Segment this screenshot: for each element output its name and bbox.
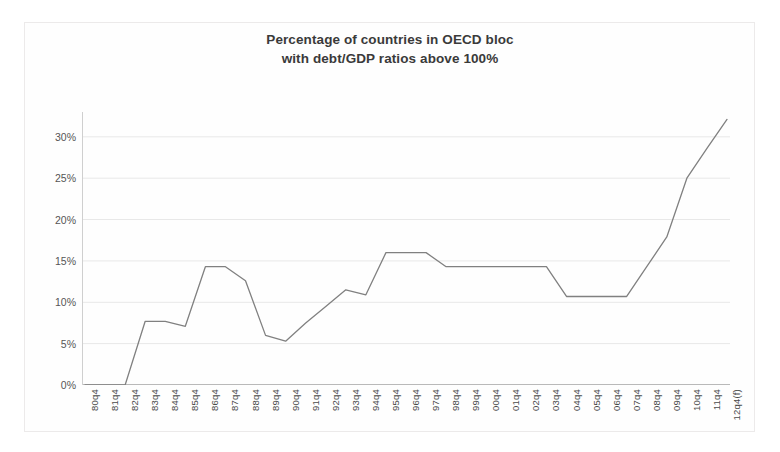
x-axis-tick-label: 07q4 [631,389,642,411]
chart-title: Percentage of countries in OECD bloc wit… [0,30,780,68]
y-axis-labels: 0%5%10%15%20%25%30% [32,112,76,385]
x-axis-tick-label: 00q4 [490,389,501,411]
x-axis-tick-label: 91q4 [310,389,321,411]
x-axis-tick-label: 03q4 [550,389,561,411]
y-axis-tick-label: 0% [36,379,76,391]
x-axis-tick-label: 05q4 [591,389,602,411]
data-series-line [85,119,727,385]
y-axis-tick-label: 30% [36,131,76,143]
y-axis-tick-label: 25% [36,172,76,184]
y-axis-tick-label: 5% [36,338,76,350]
x-axis-tick-label: 06q4 [611,389,622,411]
x-axis-tick-label: 92q4 [330,389,341,411]
x-axis-tick-label: 02q4 [530,389,541,411]
plot-area [82,112,730,385]
x-axis-tick-label: 99q4 [470,389,481,411]
x-axis-tick-label: 87q4 [229,389,240,411]
x-axis-tick-label: 82q4 [129,389,140,411]
x-axis-tick-label: 81q4 [109,389,120,411]
chart-container: Percentage of countries in OECD bloc wit… [0,0,780,452]
x-axis-tick-label: 84q4 [169,389,180,411]
x-axis-tick-label: 04q4 [571,389,582,411]
x-axis-tick-label: 86q4 [209,389,220,411]
x-axis-tick-label: 80q4 [89,389,100,411]
x-axis-tick-label: 12q4(f) [731,389,742,421]
x-axis-tick-label: 98q4 [450,389,461,411]
x-axis-tick-label: 83q4 [149,389,160,411]
x-axis-tick-label: 11q4 [711,389,722,410]
x-axis-tick-label: 90q4 [290,389,301,411]
y-axis-tick-label: 20% [36,214,76,226]
x-axis-tick-label: 10q4 [691,389,702,411]
x-axis-tick-label: 88q4 [250,389,261,411]
gridlines [82,137,730,385]
x-axis-tick-label: 93q4 [350,389,361,411]
x-axis-tick-label: 89q4 [270,389,281,411]
x-axis-tick-label: 08q4 [651,389,662,411]
x-axis-tick-label: 94q4 [370,389,381,411]
x-axis-tick-label: 09q4 [671,389,682,411]
x-axis-tick-label: 96q4 [410,389,421,411]
y-axis-tick-label: 15% [36,255,76,267]
x-axis-tick-label: 95q4 [390,389,401,411]
x-axis-tick-label: 97q4 [430,389,441,411]
x-axis-tick-label: 85q4 [189,389,200,411]
y-axis-tick-label: 10% [36,296,76,308]
x-axis-tick-label: 01q4 [510,389,521,411]
x-axis-labels: 80q481q482q483q484q485q486q487q488q489q4… [82,389,730,449]
line-chart-svg [82,112,730,385]
